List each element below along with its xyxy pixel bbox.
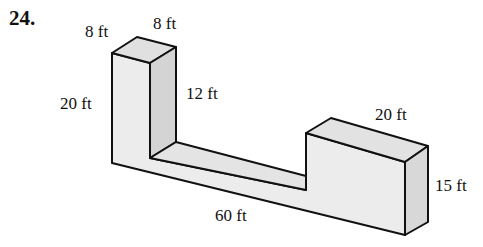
label-right-block-height: 15 ft <box>435 176 467 196</box>
label-tower-top-depth: 8 ft <box>153 14 176 34</box>
label-tower-top-width: 8 ft <box>85 22 108 42</box>
label-tower-height: 20 ft <box>60 94 92 114</box>
label-total-length: 60 ft <box>215 206 247 226</box>
figure: 24. 8 ft 8 ft 20 ft 12 ft 20 ft 15 ft 60… <box>0 0 483 247</box>
left-tower-inner-side <box>150 47 176 158</box>
label-right-block-length: 20 ft <box>375 105 407 125</box>
label-channel-inner-height: 12 ft <box>186 84 218 104</box>
right-block-end <box>405 146 428 235</box>
